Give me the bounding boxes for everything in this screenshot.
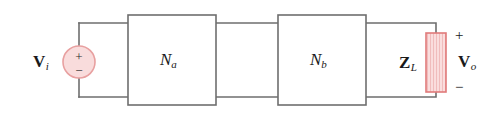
load-impedance-label: ZL: [399, 54, 417, 73]
network-block-nb-name: N: [310, 50, 321, 69]
source-voltage-symbol: V: [33, 52, 45, 71]
source-minus-sign: −: [72, 63, 86, 79]
network-block-nb-label: Nb: [310, 51, 327, 70]
network-block-nb-subscript: b: [321, 58, 327, 70]
output-minus-sign: −: [455, 80, 463, 95]
output-voltage-label: Vo: [458, 53, 476, 72]
source-voltage-label: Vi: [33, 53, 49, 72]
output-plus-sign: +: [455, 28, 463, 43]
load-impedance-subscript: L: [411, 61, 417, 73]
wire-top-nb-to-load: [366, 23, 436, 33]
network-block-na-label: Na: [160, 51, 177, 70]
circuit-diagram-figure: Vi + − Na Nb ZL + Vo −: [0, 0, 502, 120]
output-voltage-subscript: o: [471, 60, 477, 72]
load-impedance-rect: [426, 33, 446, 92]
network-block-na-name: N: [160, 50, 171, 69]
output-voltage-symbol: V: [458, 52, 470, 71]
load-impedance-symbol: Z: [399, 53, 410, 72]
source-voltage-subscript: i: [46, 60, 49, 72]
network-block-na-subscript: a: [171, 58, 177, 70]
